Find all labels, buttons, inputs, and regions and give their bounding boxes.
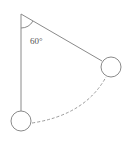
bob-displaced <box>101 57 121 77</box>
pendulum-diagram: 60° <box>0 0 131 143</box>
bob-rest <box>11 111 31 131</box>
swing-arc <box>32 77 106 123</box>
angle-label: 60° <box>30 36 43 46</box>
angle-arc <box>21 21 33 28</box>
